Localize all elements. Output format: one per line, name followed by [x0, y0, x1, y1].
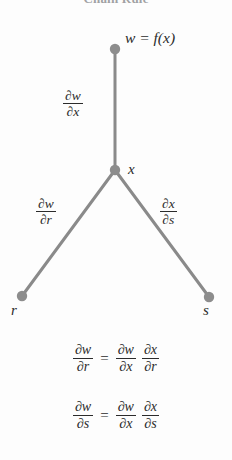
fraction-denominator: ∂r — [73, 358, 93, 375]
fraction-rhs-1: ∂w ∂x — [116, 399, 136, 431]
edge-label-dw-dx: ∂w ∂x — [63, 88, 83, 119]
node-label-w: w = f(x) — [125, 30, 175, 46]
node-w — [110, 44, 120, 54]
fraction-denominator: ∂x — [63, 103, 83, 119]
edge-label-dx-ds: ∂x ∂s — [160, 196, 177, 227]
fraction-numerator: ∂x — [142, 342, 159, 358]
fraction-denominator: ∂r — [36, 211, 56, 227]
equals-sign: = — [93, 407, 115, 424]
edge-x-to-s — [115, 170, 209, 297]
fraction-denominator: ∂r — [142, 358, 159, 375]
edge-label-dw-dr: ∂w ∂r — [36, 196, 56, 227]
fraction-numerator: ∂w — [63, 88, 83, 103]
fraction: ∂w ∂r — [36, 196, 56, 227]
fraction-numerator: ∂w — [116, 342, 136, 358]
fraction-rhs-2: ∂x ∂s — [142, 399, 159, 431]
equation-dw-dr: ∂w ∂r = ∂w ∂x ∂x ∂r — [0, 342, 232, 374]
fraction-numerator: ∂x — [160, 196, 177, 211]
chain-rule-figure: Chain Rule w = f(x) x r s ∂w ∂x ∂w ∂r — [0, 0, 232, 460]
node-x — [110, 165, 120, 175]
fraction-numerator: ∂w — [73, 342, 93, 358]
node-label-x: x — [128, 162, 135, 177]
fraction-denominator: ∂s — [73, 415, 93, 432]
fraction-denominator: ∂x — [116, 358, 136, 375]
tree-graph — [0, 0, 232, 460]
equals-sign: = — [93, 350, 115, 367]
equation-dw-ds: ∂w ∂s = ∂w ∂x ∂x ∂s — [0, 399, 232, 431]
fraction-denominator: ∂s — [142, 415, 159, 432]
node-label-r: r — [11, 303, 17, 318]
fraction-rhs-1: ∂w ∂x — [116, 342, 136, 374]
node-r — [17, 291, 27, 301]
fraction-numerator: ∂x — [142, 399, 159, 415]
fraction-denominator: ∂x — [116, 415, 136, 432]
edge-x-to-r — [22, 170, 115, 296]
fraction: ∂w ∂x — [63, 88, 83, 119]
node-s — [204, 292, 214, 302]
fraction-numerator: ∂w — [36, 196, 56, 211]
fraction: ∂x ∂s — [160, 196, 177, 227]
node-label-s: s — [203, 303, 209, 318]
fraction-numerator: ∂w — [73, 399, 93, 415]
fraction-lhs: ∂w ∂r — [73, 342, 93, 374]
fraction-denominator: ∂s — [160, 211, 177, 227]
fraction-numerator: ∂w — [116, 399, 136, 415]
fraction-rhs-2: ∂x ∂r — [142, 342, 159, 374]
fraction-lhs: ∂w ∂s — [73, 399, 93, 431]
